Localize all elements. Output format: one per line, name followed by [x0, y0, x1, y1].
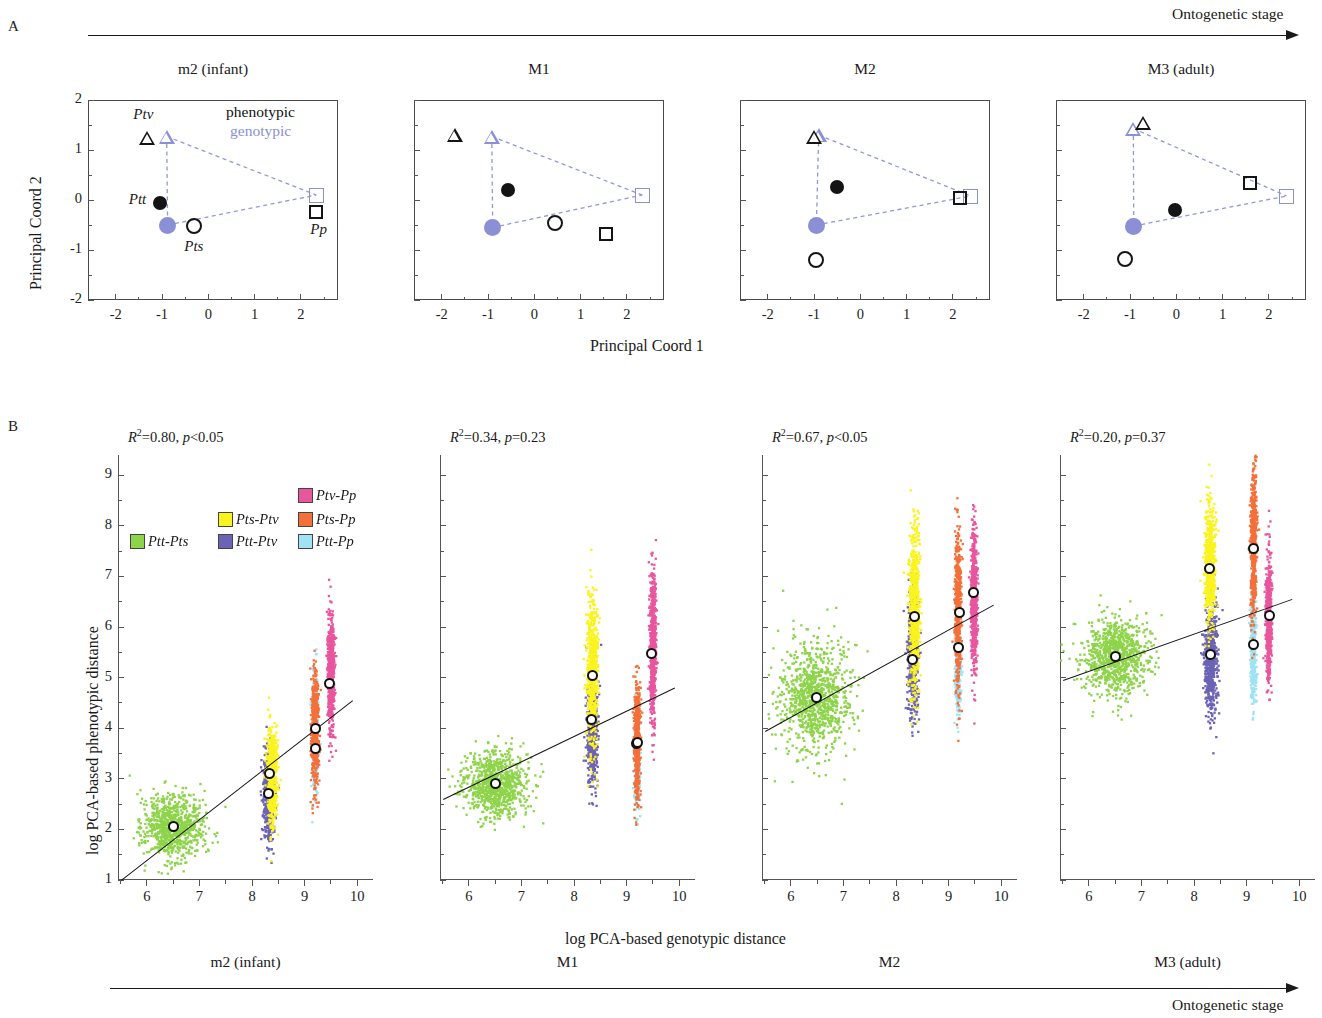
ytick-b	[762, 576, 768, 577]
xtick-b	[278, 880, 279, 884]
ytick-b	[118, 627, 124, 628]
xtick-b	[442, 880, 443, 884]
ytick-b	[118, 702, 122, 703]
xtick-b	[1299, 880, 1300, 886]
marker-genotypic-Ptv	[484, 130, 500, 144]
ytick-b	[1060, 728, 1066, 729]
ytick-b	[440, 652, 444, 653]
ytick-b	[440, 627, 446, 628]
ytick-b	[1060, 601, 1064, 602]
ytick-b	[440, 475, 446, 476]
ytick-b	[762, 804, 766, 805]
ytick-b	[118, 829, 124, 830]
ytick-b	[762, 525, 768, 526]
ytick-b	[118, 500, 122, 501]
mean-marker-Pts-Pp	[310, 723, 321, 734]
mean-marker-Ptt-Ptv	[586, 714, 597, 725]
xtick-b	[1001, 880, 1002, 886]
ytick-b	[762, 829, 768, 830]
mean-marker-Ptt-Pp	[310, 743, 321, 754]
ytick-b	[118, 601, 122, 602]
marker-genotypic-Pts	[808, 217, 825, 234]
mean-marker-Ptt-Pts	[490, 778, 501, 789]
ytick-b	[118, 778, 124, 779]
ytick-b	[1060, 500, 1064, 501]
ytick-b	[440, 728, 446, 729]
panel-b-scatter-canvas	[0, 0, 1322, 1018]
marker-phenotypic-Ptv	[1135, 116, 1151, 130]
ytick-b	[1060, 804, 1064, 805]
marker-phenotypic-Ptt	[153, 196, 167, 210]
ytick-b	[440, 778, 446, 779]
ytick-b	[118, 753, 122, 754]
ytick-b	[762, 475, 768, 476]
xtick-b	[948, 880, 949, 886]
marker-phenotypic-Ptv	[447, 128, 463, 142]
xtick-b	[764, 880, 765, 884]
ytick-b	[762, 652, 766, 653]
ytick-b	[1060, 829, 1066, 830]
xtick-b	[843, 880, 844, 886]
legend-item-Pts-Pp: Pts-Pp	[298, 511, 355, 528]
marker-phenotypic-Ptt	[830, 180, 844, 194]
ytick-b	[118, 551, 122, 552]
ytick-b	[762, 854, 766, 855]
marker-genotypic-Ptv	[159, 130, 175, 144]
mean-marker-Pts-Pp	[1248, 543, 1259, 554]
marker-genotypic-Pp	[1279, 189, 1294, 204]
ytick-b	[1060, 702, 1064, 703]
ytick-b	[440, 525, 446, 526]
ytick-b	[762, 627, 768, 628]
ytick-b	[118, 576, 124, 577]
xtick-b	[495, 880, 496, 884]
marker-genotypic-Pp	[635, 188, 650, 203]
xtick-b	[790, 880, 791, 886]
xtick-b	[547, 880, 548, 884]
ytick-b	[1060, 753, 1064, 754]
legend-text-Pts-Pp: Pts-Pp	[316, 511, 355, 528]
legend-swatch-Pts-Pp	[298, 512, 313, 527]
ytick-b	[762, 500, 766, 501]
marker-phenotypic-Ptv	[806, 130, 822, 144]
marker-phenotypic-Pp	[953, 191, 967, 205]
xtick-b	[199, 880, 200, 886]
xtick-b	[1167, 880, 1168, 884]
legend-swatch-Pts-Ptv	[218, 512, 233, 527]
xtick-b	[252, 880, 253, 886]
legend-text-Pts-Ptv: Pts-Ptv	[236, 511, 279, 528]
xtick-b	[468, 880, 469, 886]
ytick-b	[1060, 576, 1066, 577]
xtick-b	[521, 880, 522, 886]
xtick-b	[679, 880, 680, 886]
ytick-b	[762, 702, 766, 703]
ytick-b	[1060, 475, 1066, 476]
ytick-b	[1060, 551, 1064, 552]
ytick-b	[440, 829, 446, 830]
ytick-b	[1060, 627, 1066, 628]
mean-marker-Pts-Pp	[954, 607, 965, 618]
ytick-b	[440, 677, 446, 678]
ytick-b	[118, 677, 124, 678]
mean-marker-Ptt-Pts	[811, 692, 822, 703]
ytick-b	[440, 601, 444, 602]
xtick-b	[600, 880, 601, 884]
xtick-b	[1220, 880, 1221, 884]
ytick-b	[440, 551, 444, 552]
marker-genotypic-Pp	[309, 188, 324, 203]
xtick-b	[1194, 880, 1195, 886]
legend-text-Ptt-Pts: Ptt-Pts	[148, 533, 188, 550]
marker-phenotypic-Pts	[547, 215, 563, 231]
mean-marker-Pts-Ptv	[587, 670, 598, 681]
legend-item-Ptt-Pp: Ptt-Pp	[298, 533, 354, 550]
xtick-b	[922, 880, 923, 884]
xtick-b	[1115, 880, 1116, 884]
marker-phenotypic-Ptv	[139, 131, 155, 145]
marker-phenotypic-Ptt	[501, 183, 515, 197]
legend-swatch-Ptt-Pts	[130, 534, 145, 549]
marker-phenotypic-Pp	[599, 227, 613, 241]
legend-swatch-Ptv-Pp	[298, 488, 313, 503]
xtick-b	[1272, 880, 1273, 884]
ytick-b	[118, 475, 124, 476]
legend-item-Ptt-Pts: Ptt-Pts	[130, 533, 188, 550]
marker-phenotypic-Pts	[186, 218, 202, 234]
